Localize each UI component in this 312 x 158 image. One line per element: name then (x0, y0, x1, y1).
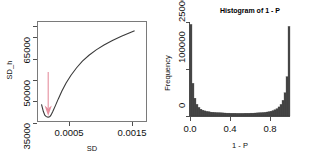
left-xaxis-title: SD (87, 144, 98, 153)
hist-bar (202, 110, 204, 116)
hist-bar (256, 113, 258, 116)
hist-bar (208, 112, 210, 116)
hist-bar (190, 24, 192, 116)
hist-bar (192, 83, 194, 116)
minimum-marker-arrow (45, 72, 52, 116)
hist-bar (250, 113, 252, 116)
two-panel-figure: 65000 50000 35000 SD_h (0, 0, 312, 158)
hist-bar (236, 113, 238, 116)
hist-bar (244, 113, 246, 116)
hist-bar (278, 107, 280, 116)
left-yaxis-title: SD_h (5, 61, 14, 80)
hist-bar (248, 113, 250, 116)
right-xtick-label-2: 0.8 (263, 123, 276, 134)
hist-bar (284, 93, 286, 116)
left-data-curve (42, 31, 135, 117)
hist-bar (224, 113, 226, 116)
right-xaxis (190, 117, 290, 121)
hist-bar (264, 112, 266, 116)
hist-bar (254, 113, 256, 116)
right-yaxis-title: Frequency (163, 55, 172, 91)
hist-bar (232, 113, 234, 116)
hist-bar (218, 113, 220, 116)
hist-bar (214, 112, 216, 116)
hist-bar (200, 109, 202, 116)
hist-bar (220, 113, 222, 116)
hist-bar (204, 111, 206, 116)
left-plot-svg: 65000 50000 35000 SD_h (0, 0, 156, 158)
hist-bar (282, 100, 284, 116)
hist-bar (238, 113, 240, 116)
right-ytick-label-1: 100000 (176, 31, 187, 63)
left-plot-box-frame (38, 22, 147, 122)
histogram-bars (190, 24, 290, 116)
left-ytick-label-2: 65000 (21, 37, 32, 63)
right-plot-panel: Histogram of 1 - P 250000 100000 0 Frequ… (156, 0, 312, 158)
hist-bar (266, 112, 268, 116)
hist-bar (276, 109, 278, 116)
hist-bar (280, 104, 282, 116)
hist-bar (286, 77, 288, 116)
hist-bar (196, 104, 198, 116)
hist-bar (206, 111, 208, 116)
right-xtick-label-0: 0.0 (183, 123, 196, 134)
hist-bar (234, 113, 236, 116)
left-plot-panel: 65000 50000 35000 SD_h (0, 0, 156, 158)
hist-bar (252, 113, 254, 116)
left-ytick-label-1: 50000 (21, 80, 32, 106)
hist-bar (194, 98, 196, 116)
left-xtick-label-0: 0.0005 (54, 127, 83, 138)
hist-bar (230, 113, 232, 116)
left-xtick-label-1: 0.0015 (117, 127, 146, 138)
left-yaxis-ticks (33, 26, 37, 123)
hist-bar (212, 112, 214, 116)
hist-bar (272, 111, 274, 116)
hist-bar (198, 107, 200, 116)
right-ytick-label-2: 250000 (176, 0, 187, 22)
hist-bar (260, 113, 262, 116)
right-xtick-label-1: 0.4 (223, 123, 236, 134)
hist-bar (216, 113, 218, 116)
hist-bar (242, 113, 244, 116)
hist-bar (258, 113, 260, 116)
left-ytick-label-0: 35000 (21, 123, 32, 149)
hist-bar (274, 110, 276, 116)
hist-bar (288, 26, 290, 116)
left-xaxis-ticks (69, 122, 132, 126)
hist-bar (268, 112, 270, 116)
hist-bar (240, 113, 242, 116)
hist-bar (270, 111, 272, 116)
right-ytick-label-0: 0 (176, 103, 187, 108)
hist-bar (228, 113, 230, 116)
hist-bar (262, 113, 264, 117)
hist-bar (246, 113, 248, 116)
hist-bar (210, 112, 212, 116)
hist-bar (222, 113, 224, 116)
right-plot-title: Histogram of 1 - P (220, 7, 280, 15)
right-plot-svg: Histogram of 1 - P 250000 100000 0 Frequ… (156, 0, 312, 158)
right-xaxis-title: 1 - P (232, 141, 248, 150)
hist-bar (226, 113, 228, 116)
